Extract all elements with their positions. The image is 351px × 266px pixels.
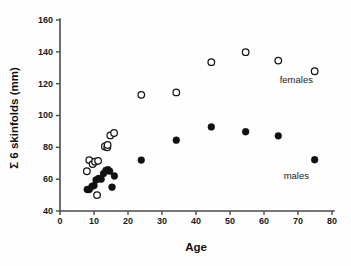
x-tick-label: 40 (191, 216, 201, 226)
data-point-open (275, 57, 282, 64)
data-point-filled (208, 124, 215, 131)
y-tick-label: 120 (38, 79, 53, 89)
data-point-filled (173, 137, 180, 144)
data-point-filled (138, 157, 145, 164)
x-tick-label: 20 (123, 216, 133, 226)
x-tick-label: 80 (327, 216, 337, 226)
y-tick-label: 100 (38, 110, 53, 120)
x-axis-title: Age (185, 241, 207, 253)
y-tick-label: 40 (43, 206, 53, 216)
series-labels-group: femalesmales (280, 74, 314, 181)
y-axis-title: Σ 6 skinfolds (mm) (8, 67, 20, 169)
x-tick-label: 0 (57, 216, 62, 226)
x-tick-label: 30 (157, 216, 167, 226)
data-point-open (111, 130, 118, 137)
scatter-plot-figure: 406080100120140160 01020304050607080 fem… (0, 0, 351, 266)
data-point-open (242, 49, 249, 56)
y-tick-label: 80 (43, 142, 53, 152)
data-point-open (208, 59, 215, 66)
x-tick-label: 10 (89, 216, 99, 226)
y-tick-label: 140 (38, 47, 53, 57)
y-tick-label: 60 (43, 174, 53, 184)
data-point-filled (275, 132, 282, 139)
x-axis-group: 01020304050607080 (57, 211, 337, 226)
x-tick-label: 60 (259, 216, 269, 226)
data-point-open (84, 168, 91, 175)
data-point-open (104, 142, 111, 149)
data-point-filled (311, 156, 318, 163)
x-tick-label: 70 (293, 216, 303, 226)
data-point-open (138, 92, 145, 99)
data-point-open (94, 192, 101, 199)
data-point-open (95, 158, 102, 165)
data-point-filled (242, 128, 249, 135)
y-tick-label: 160 (38, 15, 53, 25)
series-label-males: males (284, 170, 310, 181)
data-point-open (173, 89, 180, 96)
series-label-females: females (280, 74, 314, 85)
x-tick-label: 50 (225, 216, 235, 226)
data-point-filled (111, 173, 118, 180)
y-axis-group: 406080100120140160 (38, 15, 60, 216)
data-point-filled (109, 184, 116, 191)
plot-canvas: 406080100120140160 01020304050607080 fem… (0, 0, 351, 266)
